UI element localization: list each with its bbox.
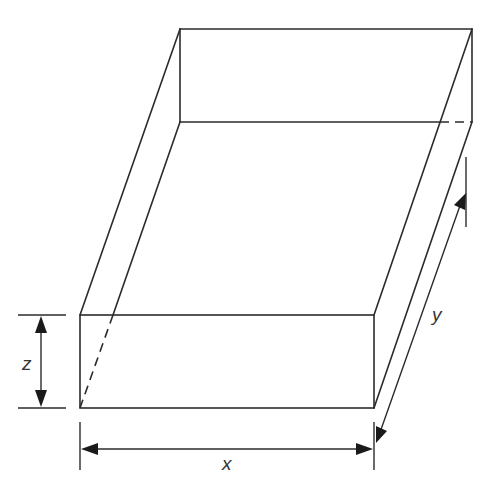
box-diagram: z x y <box>0 0 494 489</box>
y-label: y <box>430 304 443 325</box>
left-bottom-hidden-edge <box>80 315 113 408</box>
x-arrow-left-icon <box>81 443 98 455</box>
left-bottom-receding-edge <box>113 122 180 315</box>
right-bottom-receding-edge <box>374 122 472 408</box>
left-top-receding-edge <box>80 29 180 315</box>
y-dimension-line <box>378 200 462 438</box>
z-label: z <box>21 353 32 374</box>
z-arrow-up-icon <box>35 316 47 333</box>
right-top-receding-edge <box>374 29 472 315</box>
y-arrow-down-icon <box>376 426 387 443</box>
front-face <box>80 315 374 408</box>
diagram-canvas: z x y <box>0 0 494 489</box>
z-arrow-down-icon <box>35 390 47 407</box>
x-arrow-right-icon <box>356 443 373 455</box>
x-label: x <box>221 453 233 474</box>
y-arrow-up-icon <box>454 193 466 210</box>
